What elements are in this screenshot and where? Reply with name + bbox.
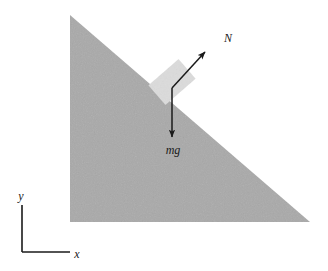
weight-force-label: mg	[166, 143, 181, 157]
inclined-plane	[70, 15, 310, 222]
y-axis-label: y	[17, 189, 24, 203]
normal-force-label: N	[223, 31, 233, 45]
physics-diagram-canvas: N mg y x	[0, 0, 328, 271]
x-axis-label: x	[73, 247, 80, 261]
figure-root: N mg y x	[0, 0, 328, 271]
